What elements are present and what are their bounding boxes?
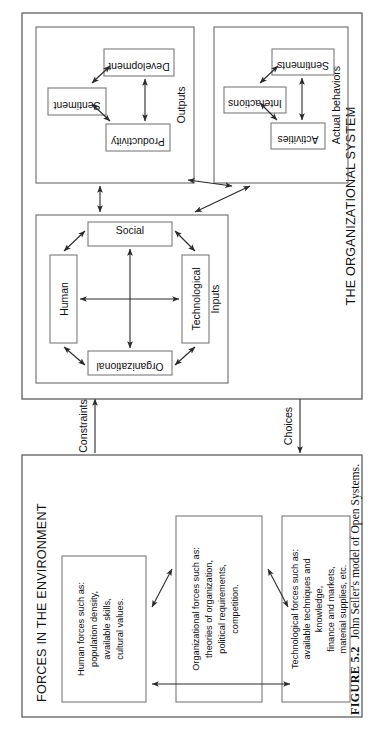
figure-caption-text: John Seiler's model of Open Systems. (349, 464, 362, 639)
group-actual-behaviors: Actual behaviors Activities Interactions… (214, 27, 348, 183)
organizational-forces-line-2: theories of organization, (204, 560, 214, 658)
node-sentiment[interactable]: Sentiment (48, 88, 106, 115)
figure-canvas: FORCES IN THE ENVIRONMENT Human forces s… (0, 0, 376, 729)
outputs-group-title: Outputs (175, 86, 187, 123)
social-label: Social (116, 225, 144, 236)
node-activities[interactable]: Activities (271, 123, 325, 149)
node-organizational-forces[interactable]: Organizational forces such as: theories … (176, 516, 262, 702)
interactions-label: Interactions (228, 98, 282, 109)
node-development[interactable]: Development (104, 49, 174, 76)
connector-technological-organizational (175, 347, 195, 365)
technological-forces-line-3: knowledge, (314, 586, 324, 632)
organizational-forces-line-1: Organizational forces such as: (191, 547, 201, 671)
constraints-label: Constraints (77, 399, 89, 453)
node-social[interactable]: Social (88, 222, 172, 246)
organizational-forces-line-4: competition. (230, 584, 240, 634)
organizational-label: Organizational (96, 361, 163, 372)
human-forces-line-3: available skills, (102, 598, 112, 659)
figure-rotor: FORCES IN THE ENVIRONMENT Human forces s… (0, 0, 376, 729)
technological-forces-line-1: Technological forces such as: (290, 549, 300, 669)
frame-forces-in-the-environment: FORCES IN THE ENVIRONMENT Human forces s… (22, 455, 362, 717)
sentiments-label: Sentiments (277, 60, 329, 71)
node-productivity[interactable]: Productivity (106, 124, 170, 151)
human-forces-line-2: population density, (89, 591, 99, 667)
frame-the-organizational-system: THE ORGANIZATIONAL SYSTEM Inputs Human S… (22, 13, 362, 399)
node-interactions[interactable]: Interactions (224, 87, 286, 113)
node-technological[interactable]: Technological (182, 255, 209, 343)
connector-human-to-organizational (152, 569, 172, 607)
choices-label: Choices (282, 407, 294, 445)
technological-forces-line-4: finance and markets, (326, 566, 336, 651)
node-organizational[interactable]: Organizational (88, 351, 172, 375)
organizational-forces-line-3: political requirements, (217, 564, 227, 653)
node-human-forces[interactable]: Human forces such as: population density… (62, 556, 146, 702)
group-outputs: Outputs Productivity Sentiment Developme… (36, 27, 194, 183)
figure-caption-label: FIGURE 5.2 (348, 646, 362, 715)
environment-frame-title: FORCES IN THE ENVIRONMENT (35, 503, 49, 702)
activities-label: Activities (278, 134, 319, 145)
inputs-group-title: Inputs (209, 285, 221, 314)
flow-constraints: Constraints (77, 399, 95, 453)
human-forces-line-4: cultural values. (115, 598, 125, 659)
group-inputs: Inputs Human Social Technological (36, 215, 228, 383)
human-label: Human (59, 282, 70, 316)
flow-choices: Choices (282, 399, 300, 453)
development-label: Development (108, 61, 169, 72)
technological-label: Technological (191, 268, 202, 331)
connector-technological-social (175, 231, 195, 251)
node-sentiments[interactable]: Sentiments (272, 49, 334, 75)
connector-inputs-actual-behaviors (195, 186, 250, 212)
connector-human-organizational (64, 347, 85, 365)
technological-forces-line-2: available techniques and (302, 558, 312, 659)
connector-human-social (64, 231, 85, 251)
figure-caption: FIGURE 5.2John Seiler's model of Open Sy… (340, 0, 376, 729)
productivity-label: Productivity (110, 136, 165, 147)
human-forces-line-1: Human forces such as: (76, 582, 86, 676)
figure-caption-line: FIGURE 5.2John Seiler's model of Open Sy… (348, 464, 363, 715)
node-human[interactable]: Human (50, 255, 77, 343)
